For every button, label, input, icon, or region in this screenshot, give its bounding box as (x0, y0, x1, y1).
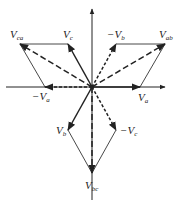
label-negVb: −Vb (107, 28, 125, 42)
phasor-negVc (92, 87, 116, 130)
label-negVc: −Vc (120, 124, 138, 138)
construction-line-ca-side (20, 44, 45, 87)
phasor-Vca (20, 44, 92, 87)
axes (6, 9, 165, 200)
phasor-Vb (68, 87, 92, 130)
label-Vc: Vc (63, 28, 74, 42)
phasor-diagram: Vca Vc −Vb Vab −Va Va Vb −Vc Vbc (0, 0, 188, 201)
phasor-Vab (92, 44, 165, 87)
label-Vb: Vb (56, 124, 67, 138)
construction-line-ab-side (140, 44, 165, 87)
construction-line-bc-right (92, 130, 116, 173)
construction-line-bc-left (68, 130, 92, 173)
origin-dot (90, 85, 94, 89)
label-Va: Va (138, 91, 149, 105)
label-Vca: Vca (10, 28, 24, 42)
label-negVa: −Va (32, 90, 50, 104)
label-Vab: Vab (159, 28, 173, 42)
